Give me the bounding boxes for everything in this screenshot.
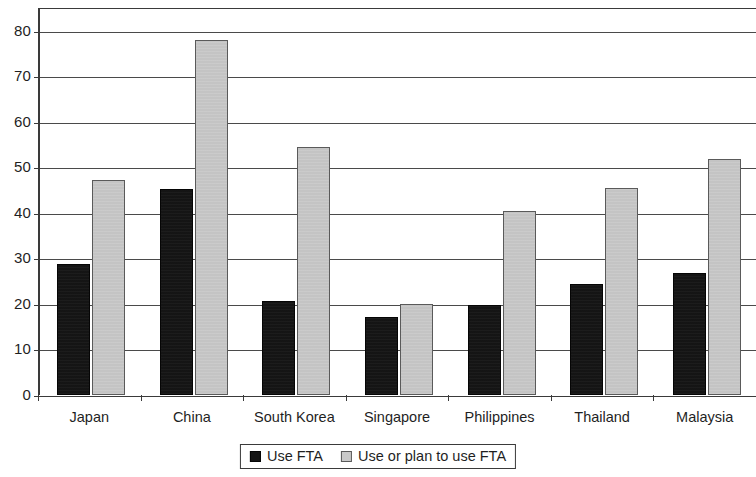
gridline-20 bbox=[40, 305, 756, 306]
light-square-swatch bbox=[341, 451, 352, 462]
y-tick-mark-10 bbox=[34, 350, 40, 351]
y-tick-mark-70 bbox=[34, 77, 40, 78]
y-tick-label-50: 50 bbox=[14, 159, 31, 174]
gridline-30 bbox=[40, 259, 756, 260]
x-tick-mark-5 bbox=[653, 395, 654, 401]
y-tick-mark-0 bbox=[34, 396, 40, 397]
x-tick-mark-3 bbox=[448, 395, 449, 401]
x-tick-mark-1 bbox=[243, 395, 244, 401]
gridline-40 bbox=[40, 214, 756, 215]
bar-malaysia-series-1 bbox=[708, 159, 741, 395]
bar-chart: 01020304050607080 JapanChinaSouth KoreaS… bbox=[0, 0, 756, 477]
y-tick-mark-50 bbox=[34, 168, 40, 169]
gridline-70 bbox=[40, 77, 756, 78]
gridline-50 bbox=[40, 168, 756, 169]
y-axis-labels: 01020304050607080 bbox=[0, 0, 31, 477]
gridline-0 bbox=[40, 396, 756, 397]
x-axis-label-philippines: Philippines bbox=[448, 409, 551, 426]
bar-japan-series-1 bbox=[92, 180, 125, 395]
gridline-60 bbox=[40, 123, 756, 124]
x-axis-label-malaysia: Malaysia bbox=[653, 409, 756, 426]
gridline-10 bbox=[40, 350, 756, 351]
bar-china-series-0 bbox=[160, 189, 193, 395]
y-tick-label-0: 0 bbox=[22, 387, 31, 402]
x-axis-label-south-korea: South Korea bbox=[243, 409, 346, 426]
x-tick-mark-2 bbox=[346, 395, 347, 401]
bar-philippines-series-1 bbox=[503, 211, 536, 395]
gridline-80 bbox=[40, 32, 756, 33]
y-tick-label-60: 60 bbox=[14, 114, 31, 129]
x-tick-mark-4 bbox=[551, 395, 552, 401]
bar-south-korea-series-1 bbox=[297, 147, 330, 395]
bar-singapore-series-1 bbox=[400, 304, 433, 395]
x-axis-label-japan: Japan bbox=[38, 409, 141, 426]
y-tick-mark-20 bbox=[34, 305, 40, 306]
bar-thailand-series-1 bbox=[605, 188, 638, 395]
y-tick-label-70: 70 bbox=[14, 68, 31, 83]
x-axis-label-china: China bbox=[141, 409, 244, 426]
y-tick-label-20: 20 bbox=[14, 296, 31, 311]
x-axis-label-singapore: Singapore bbox=[346, 409, 449, 426]
y-tick-mark-80 bbox=[34, 32, 40, 33]
bar-philippines-series-0 bbox=[468, 305, 501, 395]
y-tick-mark-40 bbox=[34, 214, 40, 215]
y-tick-label-40: 40 bbox=[14, 205, 31, 220]
y-tick-mark-60 bbox=[34, 123, 40, 124]
y-tick-label-10: 10 bbox=[14, 341, 31, 356]
bar-south-korea-series-0 bbox=[262, 301, 295, 395]
legend-entry-0: Use FTA bbox=[250, 448, 323, 464]
legend-label-0: Use FTA bbox=[267, 448, 323, 464]
legend-entry-1: Use or plan to use FTA bbox=[341, 448, 506, 464]
bar-japan-series-0 bbox=[57, 264, 90, 395]
bar-singapore-series-0 bbox=[365, 317, 398, 395]
y-tick-label-30: 30 bbox=[14, 250, 31, 265]
bar-thailand-series-0 bbox=[570, 284, 603, 395]
x-tick-mark-0 bbox=[141, 395, 142, 401]
chart-legend: Use FTAUse or plan to use FTA bbox=[240, 444, 516, 469]
y-tick-mark-30 bbox=[34, 259, 40, 260]
dark-square-swatch bbox=[250, 451, 261, 462]
bar-malaysia-series-0 bbox=[673, 273, 706, 395]
y-tick-label-80: 80 bbox=[14, 23, 31, 38]
x-axis-label-thailand: Thailand bbox=[551, 409, 654, 426]
x-tick-mark-origin bbox=[38, 395, 39, 401]
legend-label-1: Use or plan to use FTA bbox=[358, 448, 506, 464]
plot-area bbox=[38, 8, 756, 395]
bar-china-series-1 bbox=[195, 40, 228, 395]
